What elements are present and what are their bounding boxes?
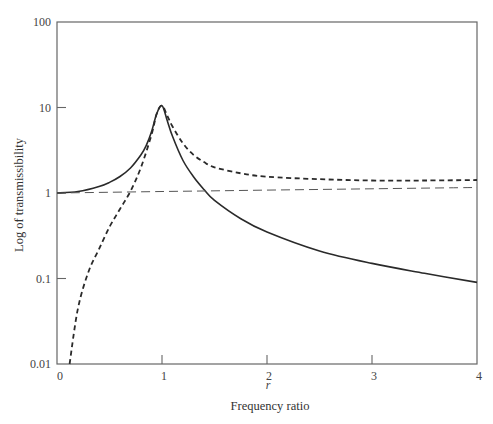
y-axis-title: Log of transmissibility bbox=[12, 137, 26, 252]
x-tick-label: 0 bbox=[57, 369, 63, 383]
plot-frame bbox=[57, 22, 477, 364]
y-tick-label: 0.01 bbox=[30, 357, 51, 371]
reference-dashed-line bbox=[57, 188, 477, 194]
x-tick-label: 1 bbox=[161, 369, 167, 383]
x-tick-label: 4 bbox=[476, 369, 482, 383]
y-tick-label: 100 bbox=[33, 15, 51, 29]
series-layer bbox=[57, 106, 477, 364]
y-tick-label: 0.1 bbox=[36, 272, 51, 286]
transmissibility-chart: 0.010.1110100 01234 r Frequency ratio Lo… bbox=[0, 0, 493, 424]
x-axis-title: Frequency ratio bbox=[231, 399, 310, 413]
x-tick-label: 3 bbox=[371, 369, 377, 383]
y-tick-label: 10 bbox=[39, 101, 51, 115]
y-tick-label: 1 bbox=[45, 186, 51, 200]
solid-transmissibility-curve bbox=[57, 106, 477, 283]
plot-border bbox=[57, 22, 477, 364]
x-axis-symbol: r bbox=[266, 378, 271, 392]
